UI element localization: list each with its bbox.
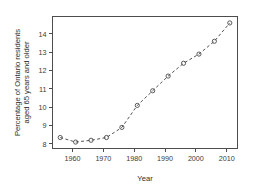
y-axis-title-line2: aged 65 years and older (22, 41, 31, 123)
data-point-marker (212, 39, 216, 43)
x-tick-label: 1960 (65, 154, 81, 163)
series-line (60, 23, 230, 142)
y-tick-label: 12 (39, 66, 47, 75)
line-chart: 196019701980199020002010891011121314Year… (0, 0, 260, 194)
x-tick-label: 2000 (188, 154, 204, 163)
y-axis-title-line1: Percentage of Ontario residents (13, 29, 22, 136)
x-tick-label: 1970 (95, 154, 111, 163)
x-tick-label: 1990 (157, 154, 173, 163)
y-tick-label: 8 (43, 140, 47, 149)
plot-frame (53, 17, 238, 149)
y-tick-label: 14 (39, 30, 47, 39)
x-axis-title: Year (137, 174, 153, 183)
y-tick-label: 13 (39, 48, 47, 57)
y-tick-label: 10 (39, 103, 47, 112)
x-tick-label: 1980 (126, 154, 142, 163)
y-tick-label: 9 (43, 121, 47, 130)
y-tick-label: 11 (39, 85, 46, 94)
x-tick-label: 2010 (219, 154, 235, 163)
data-point-marker (181, 61, 185, 65)
chart-figure: 196019701980199020002010891011121314Year… (0, 0, 260, 194)
